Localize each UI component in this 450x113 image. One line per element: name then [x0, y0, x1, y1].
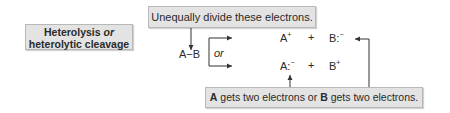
bottom-note-box: A gets two electrons or B gets two elect…: [205, 87, 423, 108]
title-main: Heterolysis: [44, 26, 101, 38]
title-line2: heterolytic cleavage: [26, 38, 132, 50]
top-note-text: Unequally divide these electrons.: [151, 11, 312, 23]
plus-top: +: [308, 31, 314, 43]
product-b-anion: B:−: [329, 31, 344, 44]
reactant-ab: A−B: [179, 48, 200, 60]
bottom-note-text2: gets two electrons.: [328, 91, 418, 103]
product-a-cation: A+: [280, 31, 291, 44]
product-a-anion: A:−: [280, 59, 295, 72]
title-or: or: [104, 26, 115, 38]
top-note-box: Unequally divide these electrons.: [148, 6, 316, 28]
title-box: Heterolysis or heterolytic cleavage: [25, 24, 133, 50]
plus-bottom: +: [308, 59, 314, 71]
branch-or-label: or: [214, 47, 224, 59]
product-b-cation: B+: [329, 59, 340, 72]
bottom-note-text1: gets two electrons or: [217, 91, 320, 103]
bottom-note-b: B: [320, 91, 328, 103]
